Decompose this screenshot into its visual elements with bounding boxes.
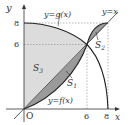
origin-label: O <box>26 111 33 121</box>
y-axis-arrow-icon <box>22 4 26 9</box>
x-axis-arrow-icon <box>115 107 120 111</box>
x-tick-8: 8 <box>104 112 109 121</box>
x-axis-label: x <box>115 112 120 122</box>
y-tick-8: 8 <box>14 19 19 28</box>
math-diagram: y x O 6 8 8 6 y=g(x) y=x y=f(x) S3 S1 S2 <box>0 0 135 125</box>
region-s1-label: S1 <box>67 78 77 89</box>
line-label: y=x <box>101 7 118 16</box>
x-tick-6: 6 <box>84 112 89 121</box>
y-axis-label: y <box>5 2 12 13</box>
curve-f-label: y=f(x) <box>47 96 73 105</box>
y-tick-6: 6 <box>14 40 19 49</box>
curve-g-label: y=g(x) <box>43 10 71 19</box>
region-s2-label: S2 <box>95 40 105 51</box>
